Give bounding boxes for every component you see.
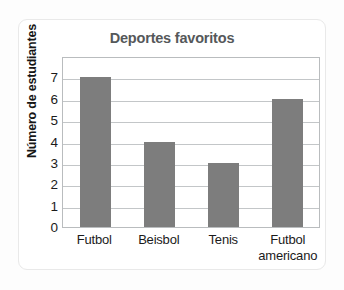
x-tick-label-line1: Tenis (209, 232, 238, 247)
x-tick-label-line1: Futbol (270, 232, 305, 247)
chart-title: Deportes favoritos (18, 30, 326, 46)
y-tick-label: 0 (40, 221, 58, 235)
bar (208, 163, 239, 227)
bar (80, 77, 111, 227)
y-tick-label: 3 (40, 157, 58, 171)
bar-slot (63, 58, 127, 227)
y-tick-label: 4 (40, 136, 58, 150)
bar-slot (255, 58, 319, 227)
bar-series (63, 58, 319, 227)
chart-screenshot: Deportes favoritos Número de estudiantes… (0, 0, 344, 290)
x-tick-label: Beisbol (127, 232, 192, 265)
plot-area (62, 57, 320, 228)
bar-slot (191, 58, 255, 227)
y-axis-tick-labels: 76543210 (40, 57, 58, 228)
x-tick-label: Tenis (191, 232, 256, 265)
y-tick-label: 7 (40, 72, 58, 86)
y-tick-label: 5 (40, 114, 58, 128)
bar (272, 99, 303, 227)
bar (144, 142, 175, 228)
x-tick-label: Futbol (62, 232, 127, 265)
y-tick-label: 6 (40, 93, 58, 107)
x-axis-tick-labels: FutbolBeisbolTenisFutbolamericano (62, 232, 320, 265)
x-tick-label: Futbolamericano (256, 232, 321, 265)
y-tick-label: 2 (40, 179, 58, 193)
bar-slot (127, 58, 191, 227)
x-tick-label-line1: Futbol (77, 232, 112, 247)
x-tick-label-line1: Beisbol (138, 232, 179, 247)
y-axis-title: Número de estudiantes (25, 11, 39, 171)
y-tick-label: 1 (40, 200, 58, 214)
x-tick-label-line2: americano (256, 248, 321, 264)
